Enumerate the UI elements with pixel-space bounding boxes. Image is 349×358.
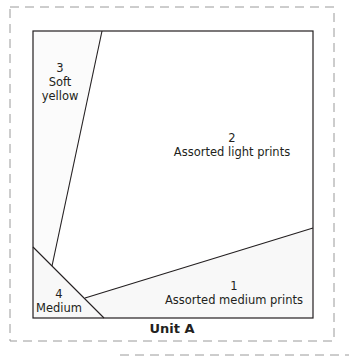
piece-3-label: 3 Soft yellow [42, 61, 79, 103]
piece-2-label: 2 Assorted light prints [174, 131, 290, 159]
piece-3-name-line1: Soft [42, 75, 79, 89]
piece-2-name: Assorted light prints [174, 145, 290, 159]
piece-4-name: Medium [36, 301, 82, 315]
piece-1-name: Assorted medium prints [165, 293, 303, 307]
piece-1-number: 1 [165, 279, 303, 293]
piece-1-label: 1 Assorted medium prints [165, 279, 303, 307]
piece-2-number: 2 [174, 131, 290, 145]
unit-title: Unit A [149, 321, 194, 336]
piece-4-number: 4 [36, 287, 82, 301]
piece-3-name-line2: yellow [42, 89, 79, 103]
piece-4-label: 4 Medium [36, 287, 82, 315]
piece-3-number: 3 [42, 61, 79, 75]
